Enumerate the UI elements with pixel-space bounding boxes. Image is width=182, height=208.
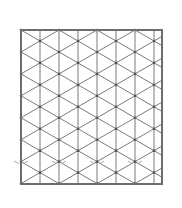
grid-vertex-dot <box>96 160 99 163</box>
faint-stub-mark <box>137 161 142 164</box>
grid-diagonal-up-line <box>21 0 162 8</box>
grid-vertex-dot <box>58 51 61 54</box>
grid-vertex-dot <box>77 62 80 65</box>
grid-vertex-dot <box>77 149 80 152</box>
grid-vertex-dot <box>39 84 42 87</box>
grid-diagonal-down-line <box>21 206 162 208</box>
grid-diagonal-down-line <box>21 184 162 208</box>
grid-vertex-dot <box>39 40 42 43</box>
faint-stub-mark <box>90 161 95 164</box>
grid-vertex-dot <box>153 171 156 174</box>
grid-vertex-dot <box>58 160 61 163</box>
faint-stub-mark <box>14 161 19 164</box>
grid-vertex-dot <box>134 160 137 163</box>
faint-stub-mark <box>128 161 133 164</box>
grid-vertex-dot <box>77 84 80 87</box>
grid-diagonal-down-line <box>21 0 162 46</box>
grid-vertex-dot <box>153 149 156 152</box>
grid-lines <box>21 0 162 208</box>
triangular-grid-canvas <box>0 0 182 208</box>
grid-vertex-dot <box>134 95 137 98</box>
grid-diagonal-up-line <box>21 0 162 74</box>
grid-vertex-dot <box>96 138 99 141</box>
grid-vertex-dot <box>134 138 137 141</box>
grid-vertex-dot <box>39 149 42 152</box>
grid-diagonal-up-line <box>21 146 162 208</box>
grid-vertex-dot <box>96 51 99 54</box>
grid-vertex-dot <box>153 62 156 65</box>
grid-vertex-dot <box>153 127 156 130</box>
grid-vertex-dot <box>58 138 61 141</box>
grid-vertex-dot <box>153 84 156 87</box>
grid-vertex-dot <box>77 105 80 108</box>
grid-vertex-dot <box>77 171 80 174</box>
grid-vertex-dot <box>134 51 137 54</box>
grid-vertex-dot <box>115 84 118 87</box>
grid-vertex-dot <box>115 62 118 65</box>
faint-stub-mark <box>23 161 28 164</box>
grid-vertex-dot <box>77 127 80 130</box>
grid-vertex-dot <box>96 73 99 76</box>
grid-vertex-dot <box>58 73 61 76</box>
grid-vertex-dot <box>153 40 156 43</box>
grid-vertex-dot <box>58 95 61 98</box>
faint-stub-mark <box>61 161 66 164</box>
grid-vertex-dot <box>115 105 118 108</box>
grid-vertex-dot <box>115 171 118 174</box>
grid-vertex-dot <box>115 40 118 43</box>
grid-vertex-dot <box>134 116 137 119</box>
grid-diagonal-down-line <box>21 0 162 2</box>
grid-vertex-dot <box>77 40 80 43</box>
grid-diagonal-up-line <box>21 190 162 208</box>
grid-vertex-dot <box>39 105 42 108</box>
grid-vertex-dot <box>115 127 118 130</box>
grid-vertex-dot <box>39 171 42 174</box>
faint-stub-mark <box>99 161 104 164</box>
grid-vertex-dot <box>96 95 99 98</box>
grid-vertex-dot <box>96 116 99 119</box>
grid-diagonal-down-line <box>21 0 162 24</box>
faint-stub-mark <box>52 161 57 164</box>
grid-diagonal-up-line <box>21 0 162 52</box>
grid-vertex-dot <box>39 62 42 65</box>
grid-vertex-dot <box>58 116 61 119</box>
grid-vertex-dot <box>39 127 42 130</box>
grid-frame <box>21 30 162 184</box>
grid-vertex-dot <box>134 73 137 76</box>
grid-diagonal-up-line <box>21 0 162 30</box>
grid-vertex-dot <box>153 105 156 108</box>
grid-vertex-dot <box>115 149 118 152</box>
